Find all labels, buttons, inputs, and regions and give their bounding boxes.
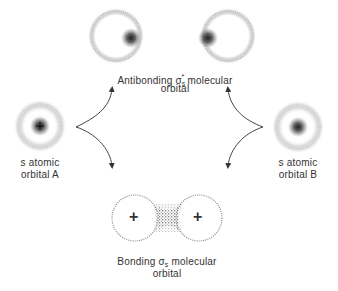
arrow-a-to-antibonding: [76, 89, 112, 127]
atomic-orbital-b: [272, 101, 324, 153]
arrow-a-to-bonding: [76, 127, 112, 166]
bonding-suffix: molecular: [169, 256, 217, 267]
bonding-label-line2: orbital: [107, 268, 227, 280]
plus-sign-right: +: [193, 209, 203, 225]
antibonding-lobe-left: [88, 8, 144, 64]
antibonding-label-line2: orbital: [115, 83, 235, 95]
antibonding-lobe-right: [198, 8, 256, 64]
arrow-b-to-bonding: [228, 127, 263, 166]
atomic-b-label-line1: s atomic: [263, 157, 333, 169]
atomic-b-label-line2: orbital B: [263, 169, 333, 181]
arrows: [76, 89, 263, 166]
orbital-diagram: [0, 0, 338, 291]
plus-sign-left: +: [129, 209, 139, 225]
atomic-a-label-line2: orbital A: [5, 169, 75, 181]
atomic-orbital-a: [14, 100, 66, 152]
atomic-a-label-line1: s atomic: [5, 157, 75, 169]
bonding-prefix: Bonding: [117, 256, 158, 267]
